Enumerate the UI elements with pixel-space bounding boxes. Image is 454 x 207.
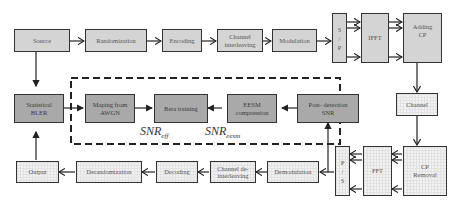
bler-label-2: BLER bbox=[31, 109, 48, 117]
encoding-label: Encoding bbox=[170, 37, 195, 45]
ps-label-p: P bbox=[341, 158, 345, 167]
output-label: Output bbox=[28, 168, 46, 176]
sp-label-s: S bbox=[338, 25, 342, 34]
deinterleaving-label-1: Channel de- bbox=[217, 165, 249, 173]
channel-deinterleaving-block: Channel de- interleaving bbox=[210, 161, 256, 183]
source-block: Source bbox=[14, 29, 70, 52]
channel-interleaving-label-2: interleaving bbox=[224, 41, 255, 49]
snr-eesm-base: SNR bbox=[205, 124, 226, 138]
modulation-label: Modulation bbox=[279, 37, 309, 45]
bler-label-1: Statistical bbox=[26, 101, 52, 109]
modulation-block: Modulation bbox=[272, 29, 317, 52]
cp-removal-label-1: CP bbox=[421, 163, 429, 171]
snr-eesm-sub: eesm bbox=[226, 132, 240, 140]
ps-block: P / S bbox=[335, 146, 350, 196]
snr-eff-label: SNReff bbox=[140, 124, 168, 140]
adding-cp-label-1: Adding bbox=[413, 23, 433, 31]
sp-label-slash: / bbox=[339, 34, 341, 43]
mapping-awgn-block: Maping from AWGN bbox=[85, 94, 135, 123]
ifft-block: IFFT bbox=[361, 13, 389, 63]
adding-cp-block: Adding CP bbox=[403, 13, 442, 63]
eesm-compression-block: EESM compression bbox=[227, 94, 277, 123]
randomization-label: Randomization bbox=[96, 37, 136, 45]
deinterleaving-label-2: interleaving bbox=[217, 172, 248, 180]
post-detection-snr-block: Post- detection SNR bbox=[297, 94, 359, 123]
derandomization-label: Derandomization bbox=[86, 168, 131, 176]
eesm-label-1: EESM bbox=[243, 101, 260, 109]
output-block: Output bbox=[16, 161, 59, 183]
statistical-bler-block: Statistical BLER bbox=[14, 94, 64, 123]
channel-interleaving-block: Channel interleaving bbox=[217, 29, 263, 52]
demodulation-block: Demodulation bbox=[267, 161, 319, 183]
cp-removal-label-2: Removal bbox=[413, 171, 436, 179]
channel-block: Channel bbox=[396, 93, 438, 116]
fft-label: FFT bbox=[372, 167, 383, 175]
cp-removal-block: CP Removal bbox=[403, 146, 447, 196]
sp-block: S / P bbox=[332, 13, 347, 63]
ps-label-s: S bbox=[341, 176, 345, 185]
channel-label: Channel bbox=[406, 101, 428, 109]
randomization-block: Randomization bbox=[85, 29, 147, 52]
mapping-label-1: Maping from bbox=[93, 101, 127, 109]
mapping-label-2: AWGN bbox=[100, 109, 120, 117]
eesm-label-2: compression bbox=[236, 109, 269, 117]
post-detection-label-2: SNR bbox=[322, 109, 335, 117]
snr-eesm-label: SNReesm bbox=[205, 124, 240, 140]
decoding-label: Decoding bbox=[164, 168, 189, 176]
source-label: Source bbox=[33, 37, 51, 45]
snr-eff-base: SNR bbox=[140, 124, 161, 138]
decoding-block: Decoding bbox=[156, 161, 198, 183]
demodulation-label: Demodulation bbox=[274, 168, 311, 176]
post-detection-label-1: Post- detection bbox=[309, 101, 348, 109]
derandomization-block: Derandomization bbox=[76, 161, 142, 183]
encoding-block: Encoding bbox=[162, 29, 202, 52]
fft-block: FFT bbox=[363, 146, 392, 196]
channel-interleaving-label-1: Channel bbox=[229, 33, 251, 41]
beta-training-label: Beta training bbox=[164, 105, 198, 113]
sp-label-p: P bbox=[338, 43, 342, 52]
snr-eff-sub: eff bbox=[161, 132, 168, 140]
ps-label-slash: / bbox=[342, 167, 344, 176]
adding-cp-label-2: CP bbox=[419, 31, 427, 39]
ifft-label: IFFT bbox=[368, 34, 381, 42]
beta-training-block: Beta training bbox=[154, 94, 208, 123]
